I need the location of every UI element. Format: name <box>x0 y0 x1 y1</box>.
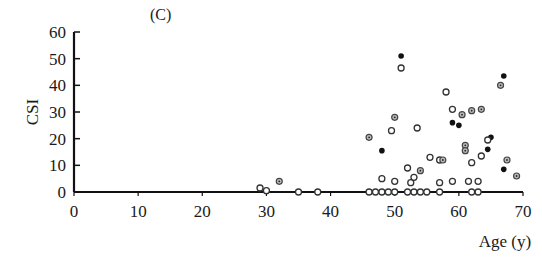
filled-point <box>456 123 462 129</box>
open-point <box>469 189 475 195</box>
open-point <box>414 125 420 131</box>
open-point <box>405 189 411 195</box>
y-axis-title: CSI <box>23 98 42 125</box>
dotted-point-center <box>419 170 421 172</box>
y-tick-label: 20 <box>49 130 66 149</box>
open-point <box>372 189 378 195</box>
filled-point <box>398 53 404 59</box>
dotted-point-center <box>464 150 466 152</box>
open-point <box>485 137 491 143</box>
x-tick-label: 30 <box>258 202 275 221</box>
open-point <box>437 180 443 186</box>
x-tick-label: 20 <box>194 202 211 221</box>
open-point <box>465 178 471 184</box>
filled-point <box>450 120 456 126</box>
x-tick-label: 70 <box>515 202 532 221</box>
x-tick-label: 50 <box>386 202 403 221</box>
open-point <box>379 176 385 182</box>
y-tick-label: 60 <box>49 23 66 42</box>
open-point <box>443 89 449 95</box>
scatter-chart: (C) CSI Age (y) 010203040506001020304050… <box>0 0 542 263</box>
open-point <box>257 185 263 191</box>
data-points <box>257 53 520 195</box>
open-point <box>411 189 417 195</box>
open-point <box>417 189 423 195</box>
panel-label: (C) <box>150 6 171 24</box>
open-point <box>392 189 398 195</box>
open-point <box>405 165 411 171</box>
dotted-point-center <box>461 114 463 116</box>
open-point <box>475 189 481 195</box>
open-point <box>296 189 302 195</box>
open-point <box>424 189 430 195</box>
y-tick-label: 50 <box>49 50 66 69</box>
y-tick-label: 30 <box>49 103 66 122</box>
open-point <box>379 189 385 195</box>
filled-point <box>379 148 385 154</box>
dotted-point-center <box>480 108 482 110</box>
open-point <box>366 189 372 195</box>
filled-point <box>501 167 507 173</box>
open-point <box>475 178 481 184</box>
open-point <box>469 160 475 166</box>
open-point <box>385 189 391 195</box>
dotted-point-center <box>464 144 466 146</box>
x-axis-title: Age (y) <box>479 232 531 251</box>
open-point <box>389 128 395 134</box>
dotted-point-center <box>500 84 502 86</box>
open-point <box>478 153 484 159</box>
axes: 0102030405060010203040506070 <box>49 23 532 221</box>
y-tick-label: 0 <box>58 183 67 202</box>
x-tick-label: 0 <box>70 202 79 221</box>
open-point <box>398 65 404 71</box>
dotted-point-center <box>506 159 508 161</box>
dotted-point-center <box>471 110 473 112</box>
filled-point <box>501 73 507 79</box>
open-point <box>263 188 269 194</box>
open-point <box>315 189 321 195</box>
dotted-point-center <box>368 136 370 138</box>
open-point <box>449 106 455 112</box>
dotted-point-center <box>394 116 396 118</box>
filled-point <box>485 147 491 153</box>
dotted-point-center <box>278 180 280 182</box>
y-tick-label: 10 <box>49 156 66 175</box>
y-tick-label: 40 <box>49 76 66 95</box>
x-tick-label: 60 <box>450 202 467 221</box>
open-point <box>392 178 398 184</box>
open-point <box>449 178 455 184</box>
x-tick-label: 10 <box>130 202 147 221</box>
x-tick-label: 40 <box>322 202 339 221</box>
dotted-point-center <box>516 175 518 177</box>
open-point <box>411 174 417 180</box>
dotted-point-center <box>442 159 444 161</box>
open-point <box>437 189 443 195</box>
open-point <box>427 154 433 160</box>
